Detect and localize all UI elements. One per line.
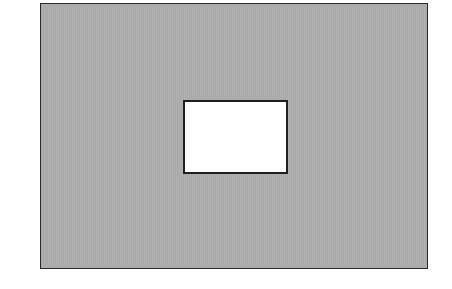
inner-white-rectangle: [183, 100, 288, 174]
